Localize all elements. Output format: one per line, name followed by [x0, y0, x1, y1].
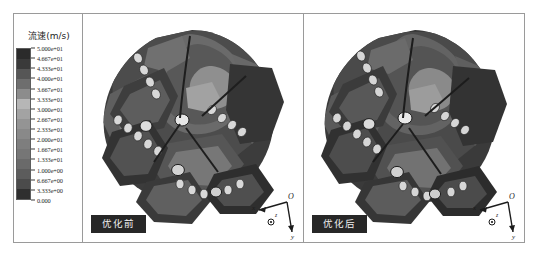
tick-dash — [31, 98, 35, 99]
axis-x-label-before: x — [251, 204, 256, 212]
colorbar-band — [17, 69, 30, 79]
colorbar-band — [17, 179, 30, 189]
colorbar-tick: 3.333e+00 — [31, 185, 63, 194]
colorbar-tick: 1.333e+01 — [31, 155, 63, 164]
axis-z-label-before: z — [274, 212, 278, 218]
colorbar-band — [17, 159, 30, 169]
tick-dash — [31, 78, 35, 79]
tick-dash — [31, 159, 35, 160]
colorbar-band — [17, 129, 30, 139]
colorbar-band — [17, 139, 30, 149]
colorbar-band — [17, 189, 30, 199]
colorbar-tick: 0.000 — [31, 196, 51, 205]
colorbar-band — [17, 59, 30, 69]
tick-dash — [31, 88, 35, 89]
tick-value: 3.000e+01 — [37, 105, 63, 112]
colorbar-band — [17, 119, 30, 129]
axis-y-label-after: y — [511, 233, 516, 240]
tick-dash — [31, 179, 35, 180]
colorbar-band — [17, 109, 30, 119]
colorbar-band — [17, 149, 30, 159]
axes-triad-after: O x y z — [468, 190, 520, 240]
colorbar-band — [17, 79, 30, 89]
tick-value: 4.000e+01 — [37, 75, 63, 82]
legend-title: 流速(m/s) — [15, 29, 83, 42]
tick-dash — [31, 68, 35, 69]
tick-value: 3.333e+01 — [37, 95, 63, 102]
colorbar-tick: 1.667e+01 — [31, 145, 63, 154]
tick-value: 5.000e+01 — [37, 45, 63, 52]
colorbar-tick: 3.000e+01 — [31, 104, 63, 113]
colorbar-tick: 4.667e+01 — [31, 54, 63, 63]
colorbar-tick: 5.000e+01 — [31, 44, 63, 53]
tick-dash — [31, 58, 35, 59]
tick-value: 3.667e+01 — [37, 85, 63, 92]
figure-frame: 流速(m/s) 5.000e+014.667e+014.333e+014.000… — [13, 13, 525, 243]
legend-panel: 流速(m/s) 5.000e+014.667e+014.333e+014.000… — [14, 14, 83, 242]
colorbar-tick: 3.333e+01 — [31, 94, 63, 103]
tick-dash — [31, 139, 35, 140]
tick-value: 4.333e+01 — [37, 65, 63, 72]
colorbar-tick: 4.000e+01 — [31, 74, 63, 83]
colorbar-tick: 1.000e+00 — [31, 165, 63, 174]
colorbar-band — [17, 169, 30, 179]
colorbar-band — [17, 99, 30, 109]
colorbar-tick: 6.667e+00 — [31, 175, 63, 184]
tick-dash — [31, 200, 35, 201]
axis-x-label-after: x — [472, 204, 477, 212]
colorbar-tick: 2.667e+01 — [31, 114, 63, 123]
colorbar-tick: 3.667e+01 — [31, 84, 63, 93]
tick-dash — [31, 118, 35, 119]
tick-value: 2.333e+01 — [37, 126, 63, 133]
tick-value: 4.667e+01 — [37, 55, 63, 62]
tick-dash — [31, 149, 35, 150]
panel-label-before: 优化前 — [91, 215, 146, 234]
colorbar-tick: 2.333e+01 — [31, 125, 63, 134]
axis-origin-label-after: O — [509, 192, 515, 201]
tick-value: 6.667e+00 — [37, 176, 63, 183]
colorbar-band — [17, 49, 30, 59]
panel-label-after: 优化后 — [312, 215, 367, 234]
colorbar — [16, 48, 31, 200]
tick-dash — [31, 189, 35, 190]
axis-z-label-after: z — [495, 212, 499, 218]
tick-value: 3.333e+00 — [37, 186, 63, 193]
panel-before: 优化前 O x y z — [83, 14, 304, 242]
axis-origin-label-before: O — [288, 192, 294, 201]
tick-value: 1.000e+00 — [37, 166, 63, 173]
tick-dash — [31, 169, 35, 170]
axis-y-label-before: y — [290, 233, 295, 240]
colorbar-tick: 4.333e+01 — [31, 64, 63, 73]
tick-dash — [31, 129, 35, 130]
colorbar-band — [17, 89, 30, 99]
axes-triad-before: O x y z — [247, 190, 299, 240]
tick-dash — [31, 48, 35, 49]
tick-value: 1.333e+01 — [37, 156, 63, 163]
tick-value: 2.000e+01 — [37, 136, 63, 143]
tick-dash — [31, 108, 35, 109]
tick-value: 0.000 — [37, 197, 51, 204]
colorbar-tick: 2.000e+01 — [31, 135, 63, 144]
legend-body: 5.000e+014.667e+014.333e+014.000e+013.66… — [16, 48, 82, 208]
tick-value: 1.667e+01 — [37, 146, 63, 153]
colorbar-ticks: 5.000e+014.667e+014.333e+014.000e+013.66… — [31, 48, 81, 200]
tick-value: 2.667e+01 — [37, 115, 63, 122]
panel-after: 优化后 O x y z — [304, 14, 524, 242]
